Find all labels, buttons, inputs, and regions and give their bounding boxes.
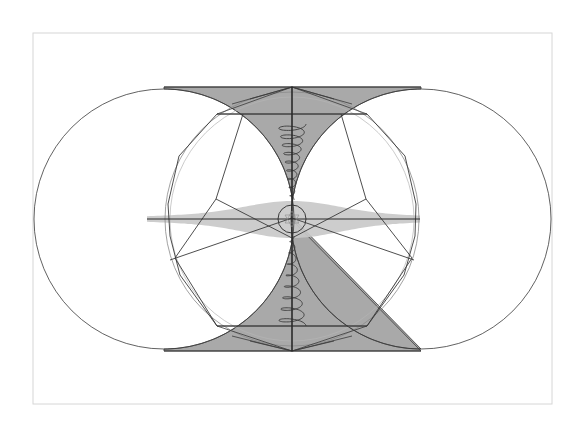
polygon-edge-8 [175, 258, 217, 326]
polygon-edge-0 [216, 114, 243, 199]
diagram-canvas [0, 0, 586, 427]
polygon-edge-2 [341, 114, 366, 199]
geometric-construction-diagram [0, 0, 586, 427]
polygon-edge-3 [366, 199, 412, 258]
polygon-edge-1 [175, 199, 216, 258]
polygon-edge-9 [367, 258, 412, 326]
